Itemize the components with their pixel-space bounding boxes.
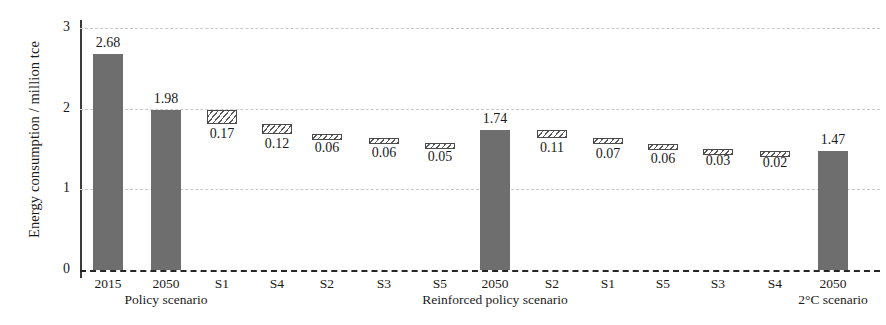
bar-value-label: 0.03 bbox=[688, 153, 748, 169]
y-tick-label: 1 bbox=[36, 180, 70, 196]
x-tick-label: S4 bbox=[745, 276, 805, 292]
bar-value-label: 0.05 bbox=[410, 149, 470, 165]
bar-value-label: 2.68 bbox=[78, 35, 138, 51]
gridline-2 bbox=[80, 109, 880, 110]
y-tick-label: 3 bbox=[36, 19, 70, 35]
bar-value-label: 0.06 bbox=[297, 140, 357, 156]
x-tick-label: S1 bbox=[192, 276, 252, 292]
bar-value-label: 1.98 bbox=[136, 91, 196, 107]
y-axis-title: Energy consumption / million tce bbox=[26, 10, 43, 270]
delta-bar bbox=[593, 138, 623, 144]
axis-baseline bbox=[80, 270, 880, 272]
bar-value-label: 1.47 bbox=[803, 132, 863, 148]
total-bar bbox=[480, 130, 510, 270]
x-tick-label: S3 bbox=[688, 276, 748, 292]
bar-value-label: 0.07 bbox=[578, 146, 638, 162]
bar-value-label: 0.06 bbox=[354, 145, 414, 161]
x-tick-label: S5 bbox=[633, 276, 693, 292]
total-bar bbox=[93, 54, 123, 270]
y-axis-spine bbox=[80, 20, 82, 278]
total-bar bbox=[151, 110, 181, 270]
bar-value-label: 0.06 bbox=[633, 151, 693, 167]
x-tick-label: S2 bbox=[297, 276, 357, 292]
delta-bar bbox=[207, 110, 237, 124]
bar-value-label: 0.11 bbox=[522, 140, 582, 156]
x-tick-label: 2015 bbox=[78, 276, 138, 292]
x-tick-label: 2050 bbox=[803, 276, 863, 292]
bar-value-label: 0.02 bbox=[745, 155, 805, 171]
bar-value-label: 0.17 bbox=[192, 126, 252, 142]
x-tick-label: 2050 bbox=[465, 276, 525, 292]
plot-area: 0123 2.681.980.170.120.060.060.051.740.1… bbox=[80, 8, 880, 278]
delta-bar bbox=[537, 130, 567, 139]
x-tick-label: S3 bbox=[354, 276, 414, 292]
total-bar bbox=[818, 151, 848, 270]
delta-bar bbox=[369, 138, 399, 144]
scenario-group-label: Reinforced policy scenario bbox=[385, 292, 605, 308]
x-tick-label: 2050 bbox=[136, 276, 196, 292]
y-tick-label: 2 bbox=[36, 100, 70, 116]
x-tick-label: S5 bbox=[410, 276, 470, 292]
x-tick-label: S2 bbox=[522, 276, 582, 292]
x-tick-label: S1 bbox=[578, 276, 638, 292]
y-tick-label: 0 bbox=[36, 261, 70, 277]
gridline-3 bbox=[80, 28, 880, 29]
scenario-group-label: Policy scenario bbox=[56, 292, 276, 308]
delta-bar bbox=[312, 134, 342, 140]
bar-value-label: 1.74 bbox=[465, 111, 525, 127]
delta-bar bbox=[262, 124, 292, 134]
delta-bar bbox=[648, 144, 678, 150]
scenario-group-label: 2°C scenario bbox=[723, 292, 886, 308]
waterfall-chart: Energy consumption / million tce 0123 2.… bbox=[0, 0, 886, 325]
